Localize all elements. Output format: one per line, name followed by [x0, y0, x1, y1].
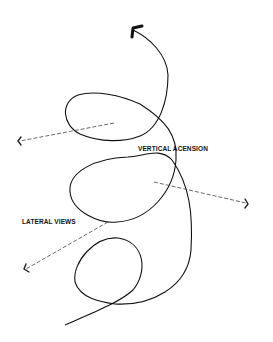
dashed-arrow-downleft-line — [26, 222, 108, 269]
dashed-arrow-left-line — [20, 123, 114, 141]
spiral-curve — [65, 30, 192, 325]
arrowhead-left-icon — [18, 137, 21, 145]
vertical-ascension-label: VERTICAL ACENSION — [138, 145, 208, 152]
lateral-views-label: LATERAL VIEWS — [22, 218, 76, 225]
diagram-canvas — [0, 0, 273, 342]
arrowhead-right-icon — [245, 199, 248, 208]
dashed-arrow-right-line — [154, 182, 246, 203]
